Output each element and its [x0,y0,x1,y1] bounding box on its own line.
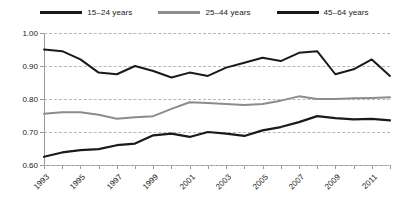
y-tick-label: 0.80 [0,95,38,104]
x-tick-label: 2005 [246,172,269,195]
x-tick-label: 2007 [283,172,306,195]
x-tick-label: 1999 [137,172,160,195]
x-tick-label: 1995 [64,172,87,195]
legend-label: 15–24 years [87,8,132,17]
x-tick-label: 2011 [355,172,378,195]
legend-item-1[interactable]: 15–24 years [40,8,132,17]
legend-swatch-icon [40,11,82,14]
legend-item-3[interactable]: 45–64 years [277,8,369,17]
gridline [44,165,390,166]
x-tick-label: 2001 [173,172,196,195]
legend-label: 25–44 years [205,8,250,17]
series-line-3 [44,116,390,157]
y-tick-label: 0.60 [0,161,38,170]
x-tick-label: 1993 [28,172,51,195]
series-line-1 [44,50,390,78]
y-tick-label: 1.00 [0,29,38,38]
series-line-2 [44,96,390,118]
plot-area [44,33,390,165]
chart-legend: 15–24 years25–44 years45–64 years [0,8,409,17]
x-tick-label: 1997 [100,172,123,195]
y-tick-label: 0.90 [0,62,38,71]
x-tick-label: 2009 [319,172,342,195]
y-tick-label: 0.70 [0,128,38,137]
line-chart: 15–24 years25–44 years45–64 years 0.600.… [0,0,409,210]
x-tick-mark [390,165,391,169]
legend-item-2[interactable]: 25–44 years [158,8,250,17]
legend-label: 45–64 years [324,8,369,17]
legend-swatch-icon [158,11,200,14]
series-layer [44,33,390,165]
x-tick-label: 2003 [210,172,233,195]
legend-swatch-icon [277,11,319,14]
